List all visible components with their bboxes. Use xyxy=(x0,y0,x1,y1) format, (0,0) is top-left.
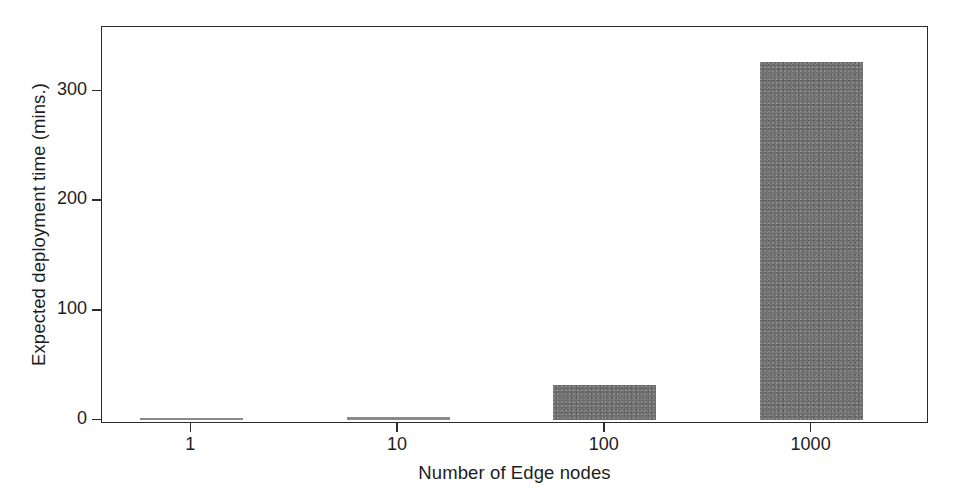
y-tick-label: 300 xyxy=(27,80,87,98)
y-tick-label: 200 xyxy=(27,189,87,207)
x-tick-mark xyxy=(396,423,398,432)
plot-area xyxy=(102,27,927,422)
bar-10 xyxy=(347,417,450,419)
y-tick-mark xyxy=(92,90,101,92)
y-tick-label: 0 xyxy=(27,409,87,427)
x-tick-label: 1 xyxy=(150,435,230,453)
x-tick-mark xyxy=(603,423,605,432)
bar-100 xyxy=(553,385,656,420)
x-tick-label: 1000 xyxy=(771,435,851,453)
x-tick-mark xyxy=(810,423,812,432)
x-tick-mark xyxy=(190,423,192,432)
y-tick-mark xyxy=(92,419,101,421)
x-tick-label: 100 xyxy=(564,435,644,453)
y-tick-mark xyxy=(92,309,101,311)
bar-1000 xyxy=(760,62,863,420)
bar-1 xyxy=(140,418,243,419)
plot-frame xyxy=(101,26,928,423)
y-tick-mark xyxy=(92,199,101,201)
x-tick-label: 10 xyxy=(357,435,437,453)
x-axis-title: Number of Edge nodes xyxy=(101,462,928,484)
bar-chart-figure: Expected deployment time (mins.) 0100200… xyxy=(0,0,959,493)
y-tick-label: 100 xyxy=(27,299,87,317)
